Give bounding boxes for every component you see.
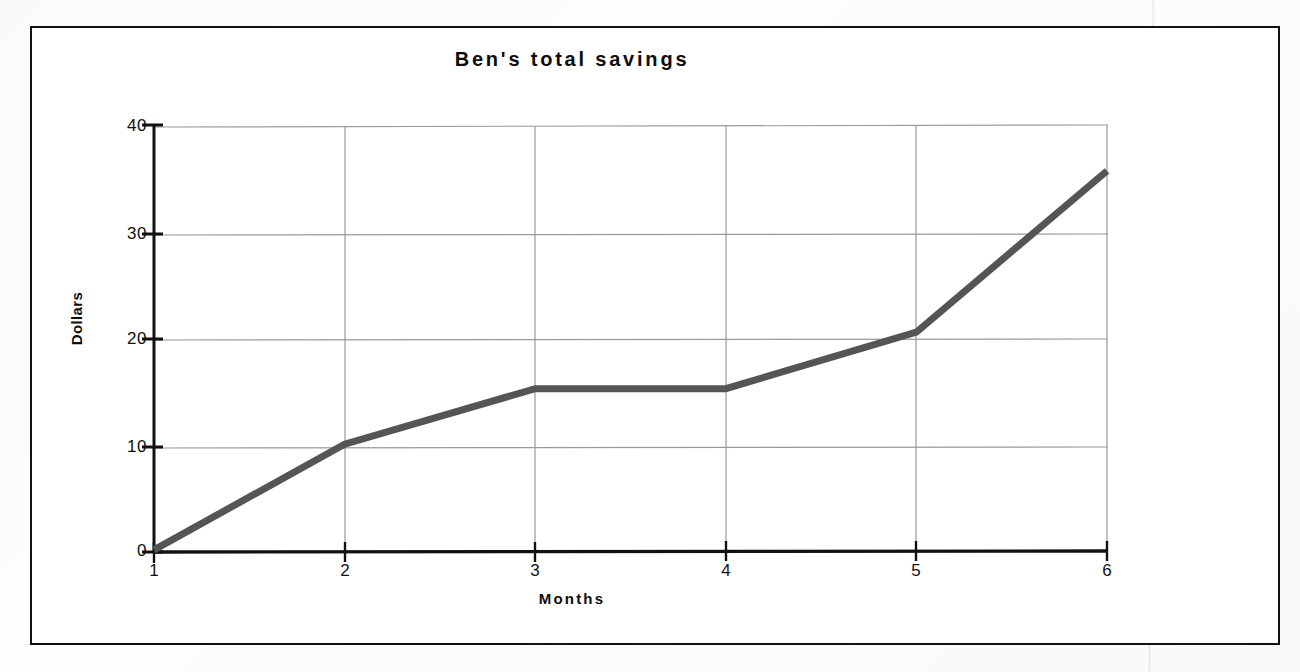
chart-figure-frame: Ben's total savings Dollars Months 40 30… <box>30 26 1280 645</box>
data-series-line <box>154 171 1107 550</box>
gridline-y10 <box>154 447 1108 448</box>
gridline-y40 <box>154 125 1108 127</box>
line-chart-plot <box>32 28 1278 643</box>
gridline-y20 <box>154 339 1108 340</box>
vertical-gridlines <box>345 125 1107 552</box>
x-axis-line <box>153 551 1108 552</box>
gridline-y30 <box>154 234 1108 235</box>
